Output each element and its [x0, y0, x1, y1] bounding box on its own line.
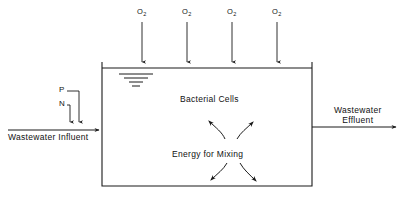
mixing-arrow-upper-left	[209, 121, 225, 139]
nitrogen-label: N	[59, 99, 65, 108]
phosphorus-label: P	[59, 85, 65, 94]
oxygen-label-4-sub: 2	[278, 11, 281, 17]
oxygen-label-2-sub: 2	[188, 11, 191, 17]
oxygen-label-3-sub: 2	[233, 11, 236, 17]
wastewater-influent-label: Wastewater Influent	[8, 133, 89, 143]
mixing-arrow-lower-right	[240, 163, 256, 181]
oxygen-label-2: O2	[182, 8, 192, 17]
tank-outline	[102, 62, 312, 186]
energy-for-mixing-label: Energy for Mixing	[172, 150, 243, 160]
nitrogen-feed-line	[67, 105, 70, 122]
oxygen-inlet-arrows	[142, 22, 277, 62]
mixing-arrow-upper-right	[237, 122, 253, 139]
phosphorus-feed-line	[67, 91, 79, 122]
wastewater-effluent-label: Wastewater Effluent	[334, 106, 382, 126]
aeration-tank-diagram: O2 O2 O2 O2 P N Wastewater Influent Wast…	[0, 0, 408, 222]
bacterial-cells-label: Bacterial Cells	[180, 95, 239, 105]
wastewater-effluent-label-line2: Effluent	[334, 116, 382, 126]
oxygen-label-1-sub: 2	[143, 11, 146, 17]
oxygen-label-4: O2	[272, 8, 282, 17]
mixing-arrow-lower-left	[211, 163, 227, 180]
water-level-symbol	[119, 74, 153, 86]
oxygen-label-3: O2	[227, 8, 237, 17]
nutrient-feed-lines	[67, 91, 79, 122]
oxygen-label-1: O2	[137, 8, 147, 17]
